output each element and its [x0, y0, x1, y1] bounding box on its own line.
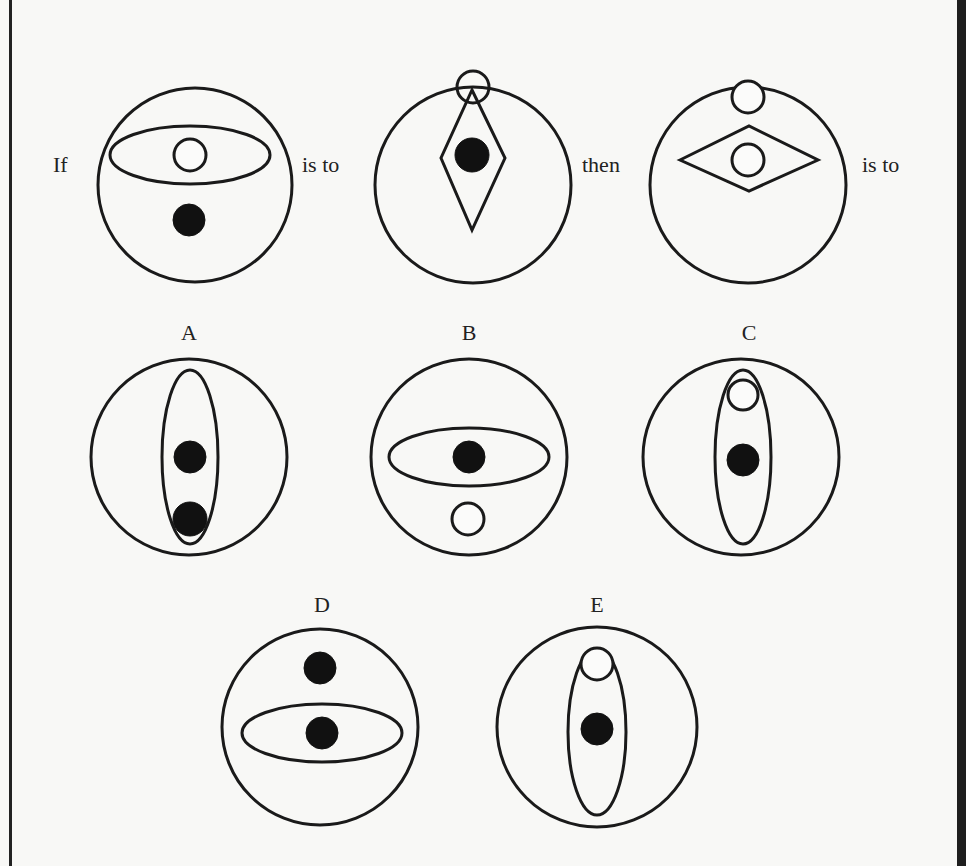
open-circle-shape	[732, 81, 764, 113]
option-figure-b[interactable]	[371, 359, 567, 555]
open-circle-shape	[728, 380, 758, 410]
black-dot-shape	[727, 444, 759, 476]
black-dot-shape	[306, 717, 338, 749]
open-circle-shape	[452, 503, 484, 535]
option-label-a: A	[181, 320, 197, 345]
option-label-c: C	[742, 320, 757, 345]
black-dot-shape	[173, 502, 207, 536]
option-figure-e[interactable]	[497, 627, 697, 827]
stem-figure-2	[375, 71, 571, 283]
option-label-d: D	[314, 592, 330, 617]
option-figure-c[interactable]	[643, 359, 839, 555]
black-dot-shape	[581, 713, 613, 745]
outer-circle-shape	[650, 87, 846, 283]
option-label-e: E	[590, 592, 603, 617]
black-dot-shape	[455, 138, 489, 172]
stem-figure-3	[650, 81, 846, 283]
black-dot-shape	[304, 652, 336, 684]
open-circle-shape	[581, 648, 613, 680]
option-figure-a[interactable]	[91, 359, 287, 555]
analogy-diagram: If is to then is to A B C D E	[0, 0, 966, 866]
black-dot-shape	[174, 441, 206, 473]
option-figure-d[interactable]	[222, 629, 418, 825]
option-label-b: B	[462, 320, 477, 345]
word-then: then	[582, 152, 620, 177]
word-is-to-1: is to	[302, 152, 339, 177]
outer-circle-shape	[375, 87, 571, 283]
open-circle-shape	[732, 144, 764, 176]
option-figures	[91, 359, 839, 827]
word-if: If	[53, 152, 68, 177]
black-dot-shape	[173, 204, 205, 236]
black-dot-shape	[453, 441, 485, 473]
stem-figures	[98, 71, 846, 283]
open-circle-shape	[174, 139, 206, 171]
word-is-to-2: is to	[862, 152, 899, 177]
stem-figure-1	[98, 88, 292, 282]
